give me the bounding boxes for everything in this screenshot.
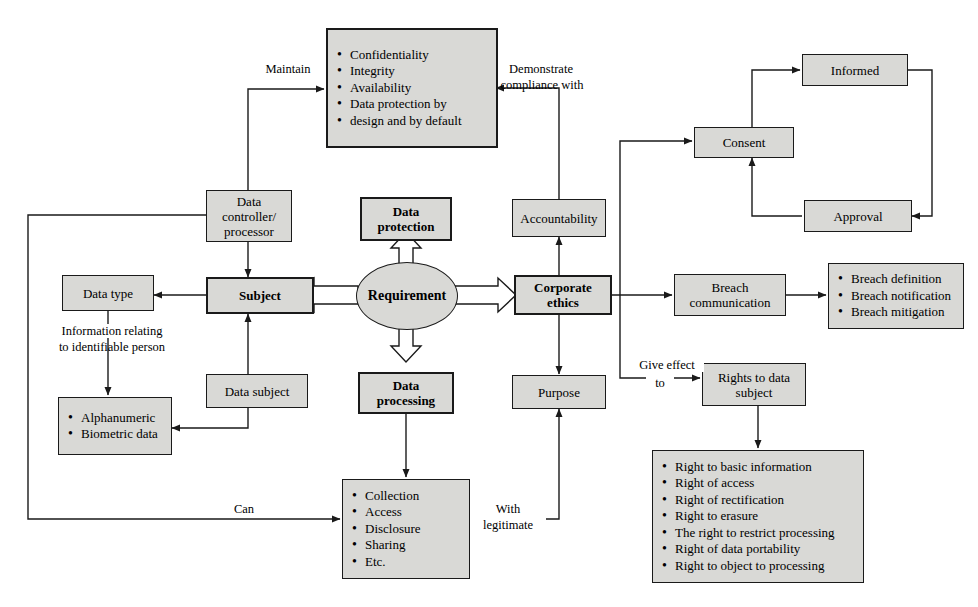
node-approval[interactable]: Approval [804, 200, 912, 232]
edge-can [28, 215, 340, 519]
edge-label-demonstrate-line2: compliance with [490, 78, 594, 92]
node-purpose[interactable]: Purpose [512, 375, 606, 409]
list-item: Breach definition [837, 271, 959, 288]
list-item-cont: design and by default [336, 113, 492, 130]
list-item: Breach notification [837, 288, 959, 305]
node-breach-communication[interactable]: Breach communication [674, 274, 786, 316]
list-item: Right of rectification [661, 492, 859, 509]
node-cia-requirements[interactable]: Confidentiality Integrity Availability D… [326, 28, 498, 148]
node-label: Subject [235, 288, 285, 303]
edge-label-can: Can [222, 502, 266, 516]
breach-list: Breach definition Breach notification Br… [829, 267, 963, 325]
list-item: Right to object to processing [661, 558, 859, 575]
node-label-line1: Data controller/ [207, 194, 291, 224]
edge-datasubject-identifiers [172, 408, 248, 428]
node-label-line2: ethics [543, 295, 583, 310]
node-label-line2: communication [686, 295, 775, 310]
node-label-line2: subject [732, 385, 777, 400]
node-accountability[interactable]: Accountability [512, 199, 606, 237]
edge-label-give-effect-line1: Give effect [630, 358, 704, 372]
node-label-line1: Rights to data [714, 370, 794, 385]
cia-list: Confidentiality Integrity Availability D… [328, 43, 496, 134]
edge-ethics-consent [620, 141, 692, 295]
list-item: Confidentiality [336, 47, 492, 64]
edge-label-give-effect-line2: to [646, 376, 674, 390]
list-item: Disclosure [351, 521, 465, 538]
edge-label-information-relating-line1: Information relating [42, 324, 182, 338]
edge-approval-consent [752, 158, 802, 216]
node-label-line1: Breach [708, 280, 753, 295]
block-arrow-right [454, 278, 516, 312]
node-processing-operations[interactable]: Collection Access Disclosure Sharing Etc… [342, 479, 470, 579]
node-identifiers[interactable]: Alphanumeric Biometric data [58, 397, 172, 455]
edge-label-with-legitimate-line1: With [484, 502, 532, 516]
node-label: Approval [829, 209, 886, 224]
edge-informed-approval [908, 70, 932, 216]
rights-list: Right to basic information Right of acce… [653, 455, 863, 579]
list-item: Availability [336, 80, 492, 97]
list-item: Right to erasure [661, 508, 859, 525]
list-item: Etc. [351, 554, 465, 571]
list-item: Data protection by [336, 96, 492, 113]
list-item: Breach mitigation [837, 304, 959, 321]
edge-maintain [248, 89, 324, 195]
node-rights-list[interactable]: Right to basic information Right of acce… [652, 450, 864, 583]
edge-label-maintain: Maintain [252, 62, 324, 76]
list-item: Access [351, 504, 465, 521]
node-data-protection[interactable]: Data protection [360, 197, 452, 241]
list-item: Biometric data [67, 426, 167, 443]
node-label: Consent [719, 135, 770, 150]
node-label: Accountability [516, 211, 601, 226]
node-data-processing[interactable]: Data processing [358, 372, 454, 414]
gdpr-requirement-diagram: Confidentiality Integrity Availability D… [0, 0, 978, 607]
node-label-line1: Data [389, 378, 424, 393]
list-item: Integrity [336, 63, 492, 80]
list-item: Collection [351, 488, 465, 505]
node-data-controller-processor[interactable]: Data controller/ processor [206, 190, 292, 242]
node-data-type[interactable]: Data type [62, 275, 154, 311]
node-label-line2: processor [220, 224, 278, 239]
processing-ops-list: Collection Access Disclosure Sharing Etc… [343, 484, 469, 575]
edge-label-information-relating-line2: to identifiable person [36, 340, 188, 354]
edge-label-demonstrate-line1: Demonstrate [498, 62, 584, 76]
identifier-list: Alphanumeric Biometric data [59, 406, 171, 447]
edge-demonstrate-compliance [496, 88, 559, 199]
edge-label-with-legitimate-line2: legitimate [470, 518, 546, 532]
node-requirement[interactable]: Requirement [356, 262, 458, 330]
list-item: Right of data portability [661, 541, 859, 558]
node-label-line1: Corporate [530, 280, 596, 295]
node-label: Data subject [221, 384, 294, 399]
node-rights-to-data-subject[interactable]: Rights to data subject [702, 363, 806, 406]
node-consent[interactable]: Consent [694, 127, 794, 158]
node-label-line2: protection [374, 219, 439, 234]
node-label: Requirement [368, 288, 446, 304]
node-breach-list[interactable]: Breach definition Breach notification Br… [828, 263, 964, 329]
list-item: Right to basic information [661, 459, 859, 476]
node-informed[interactable]: Informed [802, 54, 908, 86]
node-subject[interactable]: Subject [206, 277, 314, 314]
node-label-line1: Data [389, 204, 424, 219]
edge-consent-informed [752, 70, 800, 127]
list-item: The right to restrict processing [661, 525, 859, 542]
node-label: Purpose [534, 385, 584, 400]
node-label: Data type [79, 286, 137, 301]
list-item: Sharing [351, 537, 465, 554]
node-label: Informed [827, 63, 883, 78]
node-corporate-ethics[interactable]: Corporate ethics [514, 275, 612, 315]
node-label-line2: processing [373, 393, 439, 408]
list-item: Alphanumeric [67, 410, 167, 427]
node-data-subject[interactable]: Data subject [206, 374, 308, 408]
list-item: Right of access [661, 475, 859, 492]
